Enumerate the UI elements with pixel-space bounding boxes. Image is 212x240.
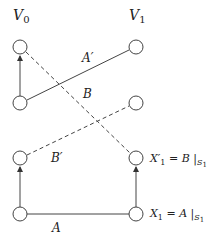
node-v1-row1	[129, 40, 143, 54]
node-v0-row1	[13, 40, 27, 54]
header-v1: V1	[129, 7, 146, 25]
node-v0-row4	[13, 207, 27, 221]
label-b-prime: B′	[50, 151, 63, 165]
edge-a-prime	[27, 50, 129, 100]
label-b: B	[82, 87, 92, 101]
label-a: A	[51, 221, 61, 235]
edge-b	[26, 52, 130, 153]
edge-b-prime	[27, 106, 129, 155]
node-v1-row2	[129, 96, 143, 110]
node-v1-row3	[129, 151, 143, 165]
header-v0: V0	[13, 7, 30, 25]
diagram-canvas: V0 V1 A′ B B′ A X′1 = B |S1 X1 = A |S1	[0, 0, 212, 240]
node-v1-row4	[129, 207, 143, 221]
node-v0-row3	[13, 151, 27, 165]
node-v0-row2	[13, 96, 27, 110]
label-x1: X1 = A |S1	[149, 207, 204, 224]
label-x1-prime: X′1 = B |S1	[149, 152, 207, 169]
label-a-prime: A′	[81, 51, 94, 65]
